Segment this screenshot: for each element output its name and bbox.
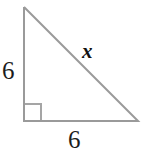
geometry-figure: 6 6 x <box>0 0 150 153</box>
right-angle-square-icon <box>25 104 41 120</box>
side-label-hypotenuse: x <box>82 41 93 62</box>
side-label-vertical-leg: 6 <box>2 58 15 83</box>
side-label-horizontal-leg: 6 <box>68 127 81 152</box>
